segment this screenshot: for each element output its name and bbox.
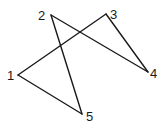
diagram-edges [18, 14, 148, 114]
vertex-label-1: 1 [7, 68, 14, 83]
star-path-diagram: 1 2 3 4 5 [0, 0, 168, 129]
vertex-label-4: 4 [150, 66, 157, 81]
vertex-label-5: 5 [86, 109, 93, 124]
edge-3-4 [106, 14, 148, 72]
edge-1-3 [18, 14, 106, 75]
edge-5-1 [18, 75, 82, 114]
vertex-label-3: 3 [110, 7, 117, 22]
vertex-labels: 1 2 3 4 5 [7, 7, 157, 124]
vertex-label-2: 2 [38, 8, 45, 23]
